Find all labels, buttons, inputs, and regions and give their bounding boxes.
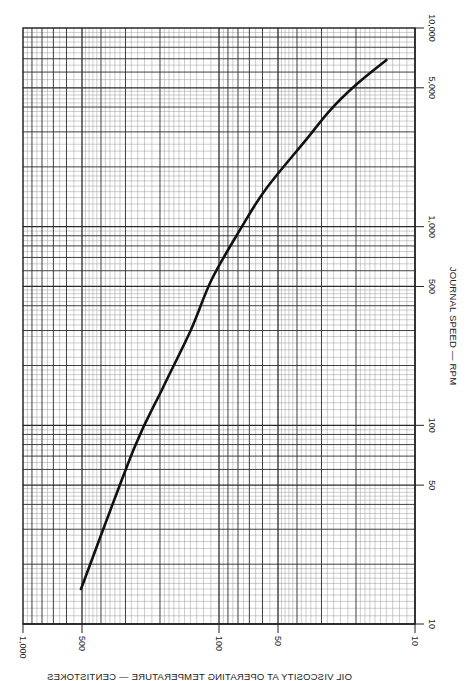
rpm-tick-label: 500 — [427, 279, 437, 294]
rpm-tick-label: 50 — [427, 480, 437, 490]
rpm-tick-label: 10 — [427, 619, 437, 629]
rpm-tick-label: 1,000 — [427, 215, 437, 238]
viscosity-axis-title: OIL VISCOSITY AT OPERATING TEMPERATURE —… — [47, 671, 352, 681]
rpm-axis-ticks: 10501005001,0005,00010,000 — [415, 14, 437, 629]
viscosity-tick-label: 10 — [410, 636, 420, 646]
rpm-tick-label: 10,000 — [427, 14, 437, 42]
viscosity-tick-label: 100 — [214, 636, 224, 651]
viscosity-tick-label: 500 — [77, 636, 87, 651]
grid-major-lines — [23, 28, 415, 624]
viscosity-tick-label: 1,000 — [18, 636, 28, 659]
rpm-axis-title: JOURNAL SPEED — RPM — [448, 267, 459, 386]
viscosity-axis-ticks: 1,0005001005010 — [18, 624, 420, 659]
rpm-tick-label: 5,000 — [427, 77, 437, 100]
viscosity-tick-label: 50 — [273, 636, 283, 646]
rpm-tick-label: 100 — [427, 418, 437, 433]
chart: 10501005001,0005,00010,000 1,00050010050… — [0, 0, 466, 681]
